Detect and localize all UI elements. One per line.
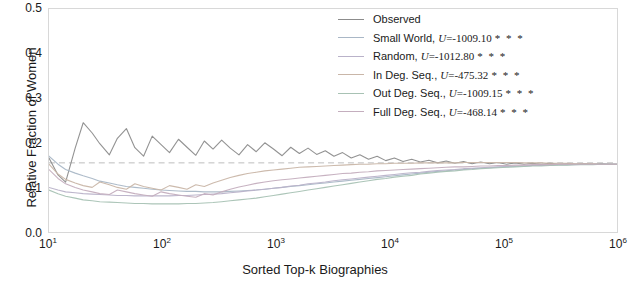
y-tick-label: 0.2 xyxy=(8,136,42,150)
legend-color-swatch xyxy=(338,37,364,38)
legend-label: Small World, U=-1009.10 * * * xyxy=(373,32,524,44)
legend-color-swatch xyxy=(338,74,364,75)
x-axis-label: Sorted Top-k Biographies xyxy=(0,262,630,277)
y-tick-label: 0.5 xyxy=(8,1,42,15)
legend-label: In Deg. Seq., U=-475.32 * * * xyxy=(373,69,521,81)
legend-label: Random, U=-1012.80 * * * xyxy=(373,50,507,62)
legend-item[interactable]: Out Deg. Seq., U=-1009.15 * * * xyxy=(338,84,626,103)
legend-item[interactable]: Full Deg. Seq., U=-468.14 * * * xyxy=(338,103,626,122)
x-tick-label: 103 xyxy=(267,236,285,251)
figure: Relative Fraction of Women 0.00.10.20.30… xyxy=(0,0,630,287)
legend-item[interactable]: In Deg. Seq., U=-475.32 * * * xyxy=(338,66,626,85)
legend-item[interactable]: Random, U=-1012.80 * * * xyxy=(338,47,626,66)
legend-label: Observed xyxy=(373,13,421,25)
y-axis-tick-labels: 0.00.10.20.30.40.5 xyxy=(6,0,42,287)
legend-item[interactable]: Observed xyxy=(338,10,626,29)
y-tick-label: 0.3 xyxy=(8,91,42,105)
legend-label: Full Deg. Seq., U=-468.14 * * * xyxy=(373,106,529,118)
legend-color-swatch xyxy=(338,19,364,20)
y-tick-label: 0.1 xyxy=(8,181,42,195)
x-tick-label: 104 xyxy=(381,236,399,251)
legend-color-swatch xyxy=(338,56,364,57)
x-tick-label: 102 xyxy=(153,236,171,251)
legend-color-swatch xyxy=(338,111,364,112)
x-tick-label: 106 xyxy=(609,236,627,251)
legend-label: Out Deg. Seq., U=-1009.15 * * * xyxy=(373,87,535,99)
y-tick-label: 0.0 xyxy=(8,226,42,240)
legend-color-swatch xyxy=(338,93,364,94)
legend-item[interactable]: Small World, U=-1009.10 * * * xyxy=(338,29,626,48)
series-line-0 xyxy=(49,123,617,182)
y-tick-label: 0.4 xyxy=(8,46,42,60)
x-tick-label: 105 xyxy=(495,236,513,251)
chart-legend: ObservedSmall World, U=-1009.10 * * *Ran… xyxy=(338,10,626,121)
x-tick-label: 101 xyxy=(39,236,57,251)
series-line-2 xyxy=(49,164,617,196)
